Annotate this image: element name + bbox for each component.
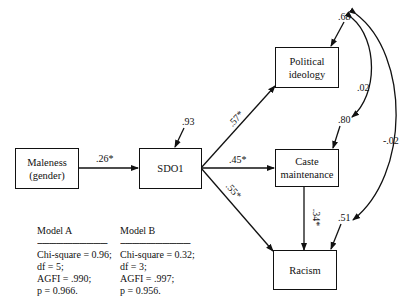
node-maleness-line1: Maleness	[27, 156, 67, 169]
node-racism: Racism	[273, 250, 337, 290]
node-sdo1-label: SDO1	[157, 162, 183, 175]
model-b-fit: Model B ------------------------------ C…	[120, 225, 195, 297]
coef-caste-racism: .34*	[311, 209, 322, 227]
node-political-line1: Political	[289, 55, 326, 68]
model-b-df: df = 3;	[120, 261, 195, 273]
coef-sdo1-caste: .45*	[229, 154, 247, 165]
model-b-chisq: Chi-square = 0.32;	[120, 249, 195, 261]
node-political-ideology: Political ideology	[275, 47, 339, 88]
node-caste-line2: maintenance	[280, 168, 333, 181]
error-racism: .51	[338, 212, 351, 223]
model-a-chisq: Chi-square = 0.96;	[37, 249, 112, 261]
error-caste: .80	[338, 114, 351, 125]
node-sdo1: SDO1	[139, 148, 202, 189]
node-maleness: Maleness (gender)	[15, 148, 79, 189]
model-a-df: df = 5;	[37, 261, 112, 273]
node-caste-maintenance: Caste maintenance	[275, 149, 339, 187]
model-a-divider: ------------------------------	[37, 237, 112, 249]
coef-maleness-sdo1: .26*	[96, 153, 114, 164]
model-a-p: p = 0.966.	[37, 285, 112, 297]
cov-political-caste: .02	[357, 82, 370, 93]
model-a-fit: Model A ------------------------------ C…	[37, 225, 112, 297]
error-political: .68	[338, 11, 351, 22]
model-b-agfi: AGFI = .997;	[120, 273, 195, 285]
node-racism-label: Racism	[289, 264, 321, 277]
error-sdo1: .93	[182, 116, 195, 127]
node-caste-line1: Caste	[280, 155, 333, 168]
node-political-line2: ideology	[289, 68, 326, 81]
cov-political-racism: -.02	[383, 135, 399, 146]
node-maleness-line2: (gender)	[27, 169, 67, 182]
model-b-p: p = 0.956.	[120, 285, 195, 297]
model-a-title: Model A	[37, 225, 112, 237]
model-b-title: Model B	[120, 225, 195, 237]
model-a-agfi: AGFI = .990;	[37, 273, 112, 285]
model-b-divider: ------------------------------	[120, 237, 195, 249]
